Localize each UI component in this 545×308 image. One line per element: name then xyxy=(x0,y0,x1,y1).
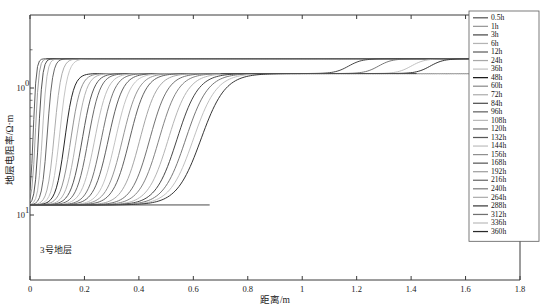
x-axis-title: 距离/m xyxy=(260,294,291,305)
legend-item-label[interactable]: 360h xyxy=(491,227,506,236)
x-tick-label: 1.4 xyxy=(406,284,417,294)
x-tick-label: 1.2 xyxy=(351,284,362,294)
x-tick-label: 1 xyxy=(300,284,304,294)
svg-text:10: 10 xyxy=(17,210,26,220)
x-tick-label: 1.8 xyxy=(515,284,526,294)
y-axis-title: 地层电阻率/Ω·m xyxy=(4,114,15,185)
x-tick-label: 1.6 xyxy=(460,284,471,294)
legend[interactable]: 0.5h1h3h6h12h24h36h48h60h72h84h96h108h12… xyxy=(469,11,539,241)
x-tick-label: 0.8 xyxy=(242,284,253,294)
x-tick-label: 0.4 xyxy=(134,284,145,294)
svg-text:10: 10 xyxy=(17,83,26,93)
formation-annotation: 3号地层 xyxy=(40,244,72,255)
svg-text:1: 1 xyxy=(25,205,29,215)
figure-background xyxy=(0,0,545,308)
svg-text:0: 0 xyxy=(25,78,29,88)
resistivity-profile-figure: 00.20.40.60.811.21.41.61.8 101100 距离/m 地… xyxy=(0,0,545,308)
x-tick-label: 0.2 xyxy=(79,284,90,294)
x-tick-label: 0.6 xyxy=(188,284,199,294)
x-tick-label: 0 xyxy=(28,284,32,294)
